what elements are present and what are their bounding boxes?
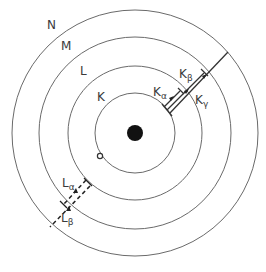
label-k-beta-sub: β (187, 73, 193, 83)
shell-label-k: K (97, 90, 106, 104)
label-k-beta: Kβ (179, 67, 193, 83)
atomic-shell-diagram: N M L K Kα Kβ Kγ Lα Lβ (0, 0, 266, 272)
label-l-beta-sub: β (68, 217, 74, 227)
label-k-gamma: Kγ (195, 93, 209, 109)
label-l-alpha-sub: α (69, 182, 75, 192)
k-alpha-tick (178, 88, 184, 94)
l-tick (84, 178, 92, 186)
label-l-beta: Lβ (61, 211, 74, 227)
label-k-alpha-sub: α (161, 91, 167, 101)
vacancy-hole (97, 153, 102, 158)
shell-label-l: L (80, 64, 87, 78)
label-k-gamma-sub: γ (203, 99, 209, 109)
nucleus (127, 125, 143, 141)
shell-label-m: M (61, 39, 71, 53)
shell-label-n: N (47, 18, 56, 32)
label-k-alpha: Kα (153, 85, 167, 101)
label-l-alpha: Lα (62, 176, 75, 192)
